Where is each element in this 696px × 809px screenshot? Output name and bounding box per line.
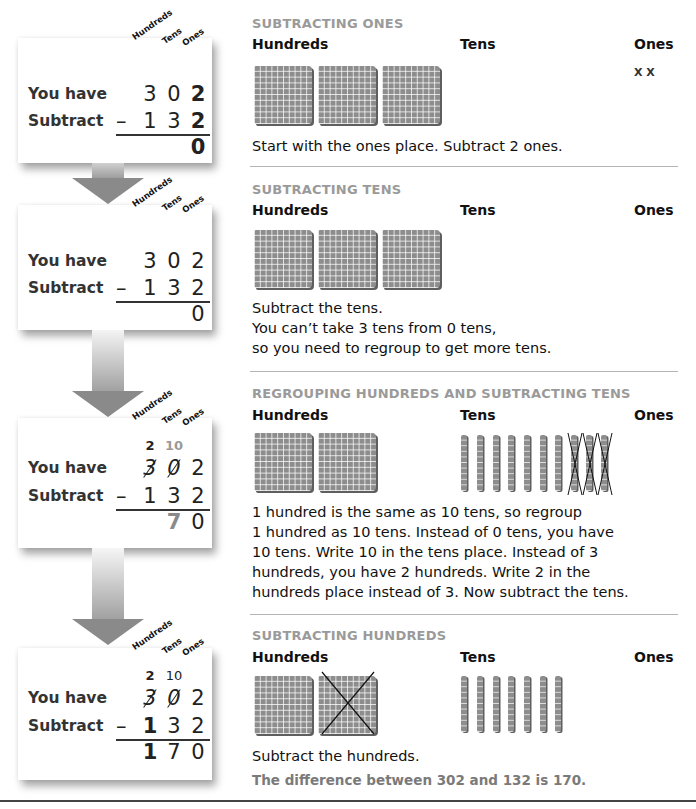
col-head-ones: Ones	[634, 649, 674, 665]
col-head-hundreds: Hundreds	[252, 649, 328, 665]
subtract-ones: 2	[188, 482, 208, 510]
header-ones: Ones	[180, 636, 205, 658]
subtract-ones: 2	[188, 712, 208, 740]
ten-rod	[524, 435, 530, 491]
place-value-headers: Hundreds Tens Ones	[18, 618, 212, 662]
work-card-step-3: Hundreds Tens Ones 2 10 You have 3 0 2 S…	[18, 418, 212, 548]
ten-rod	[508, 676, 514, 732]
subtract-label: Subtract	[28, 482, 103, 510]
have-ones: 2	[188, 454, 208, 482]
have-label: You have	[28, 454, 107, 482]
col-head-hundreds: Hundreds	[252, 202, 328, 218]
hundred-block	[382, 66, 440, 124]
section-text: Subtract the hundreds.	[252, 746, 682, 766]
header-tens: Tens	[160, 405, 183, 426]
hundred-block-crossed	[318, 676, 376, 734]
ten-rod	[508, 435, 514, 491]
have-tens: 0	[164, 247, 184, 275]
subtract-hundreds: 1	[140, 482, 160, 510]
place-value-headers: Hundreds Tens Ones	[18, 388, 212, 432]
carry-hundreds: 2	[140, 438, 160, 454]
minus-sign: –	[116, 712, 127, 740]
have-label: You have	[28, 684, 107, 712]
ten-rod	[461, 676, 467, 732]
subtract-hundreds: 1	[140, 274, 160, 302]
step-2-subtracting-tens: SUBTRACTING TENS Hundreds Tens Ones Subt…	[252, 166, 696, 371]
result-ones: 0	[188, 133, 208, 161]
section-text: 1 hundred is the same as 10 tens, so reg…	[252, 502, 682, 602]
subtract-ones: 2	[188, 274, 208, 302]
subtract-tens: 3	[164, 712, 184, 740]
subtract-hundreds: 1	[140, 712, 160, 740]
hundred-block	[382, 230, 440, 288]
ones-crossed-marks: X X	[634, 66, 655, 79]
result-row: 0	[18, 300, 212, 328]
result-tens: 7	[164, 508, 184, 536]
minus-sign: –	[116, 482, 127, 510]
subtract-tens: 3	[164, 482, 184, 510]
section-text: Subtract the tens. You can’t take 3 tens…	[252, 298, 682, 358]
result-row: 0	[18, 133, 212, 161]
have-row: You have 3 0 2	[18, 80, 212, 108]
header-ones: Ones	[180, 406, 205, 428]
subtract-tens: 3	[164, 274, 184, 302]
carry-hundreds: 2	[140, 668, 160, 684]
have-hundreds: 3	[140, 247, 160, 275]
subtract-label: Subtract	[28, 107, 103, 135]
have-row: You have 3 0 2	[18, 454, 212, 482]
col-head-hundreds: Hundreds	[252, 36, 328, 52]
ten-rod	[493, 435, 499, 491]
subtract-row: Subtract – 1 3 2	[18, 274, 212, 302]
ten-rod	[477, 435, 483, 491]
hundred-block	[318, 66, 376, 124]
ten-rod-crossed	[571, 435, 577, 491]
section-title: SUBTRACTING HUNDREDS	[252, 628, 446, 643]
ten-rod	[524, 676, 530, 732]
section-title: SUBTRACTING ONES	[252, 16, 403, 31]
result-row: 7 0	[18, 508, 212, 536]
col-head-tens: Tens	[460, 649, 496, 665]
col-head-ones: Ones	[634, 202, 674, 218]
bottom-rule	[0, 800, 696, 802]
section-text: Start with the ones place. Subtract 2 on…	[252, 136, 682, 156]
carry-tens: 10	[164, 668, 184, 684]
col-head-tens: Tens	[460, 36, 496, 52]
section-title: REGROUPING HUNDREDS AND SUBTRACTING TENS	[252, 386, 631, 401]
have-label: You have	[28, 80, 107, 108]
hundred-block	[254, 433, 312, 491]
place-value-headers: Hundreds Tens Ones	[18, 175, 212, 219]
result-ones: 0	[188, 738, 208, 766]
header-tens: Tens	[160, 192, 183, 213]
minus-sign: –	[116, 274, 127, 302]
have-row: You have 3 0 2	[18, 684, 212, 712]
step-4-subtracting-hundreds: SUBTRACTING HUNDREDS Hundreds Tens Ones …	[252, 614, 696, 804]
work-card-step-1: Hundreds Tens Ones You have 3 0 2 Subtra…	[18, 38, 212, 163]
hundred-block	[254, 230, 312, 288]
subtract-label: Subtract	[28, 712, 103, 740]
have-hundreds: 3	[140, 80, 160, 108]
section-title: SUBTRACTING TENS	[252, 182, 401, 197]
ten-rod	[493, 676, 499, 732]
ten-rod	[461, 435, 467, 491]
hundred-block	[318, 433, 376, 491]
minus-sign: –	[116, 107, 127, 135]
header-ones: Ones	[180, 193, 205, 215]
step-1-subtracting-ones: SUBTRACTING ONES Hundreds Tens Ones X X …	[252, 0, 696, 160]
subtract-hundreds: 1	[140, 107, 160, 135]
result-hundreds: 1	[140, 738, 160, 766]
conclusion-text: The difference between 302 and 132 is 17…	[252, 770, 682, 790]
subtract-ones: 2	[188, 107, 208, 135]
subtract-label: Subtract	[28, 274, 103, 302]
ten-rod	[540, 676, 546, 732]
result-row: 1 7 0	[18, 738, 212, 766]
ten-rod	[540, 435, 546, 491]
work-card-step-2: Hundreds Tens Ones You have 3 0 2 Subtra…	[18, 205, 212, 330]
col-head-tens: Tens	[460, 202, 496, 218]
col-head-hundreds: Hundreds	[252, 407, 328, 423]
carry-tens: 10	[164, 438, 184, 454]
place-value-headers: Hundreds Tens Ones	[18, 8, 212, 52]
ten-rod	[555, 676, 561, 732]
hundred-block	[254, 66, 312, 124]
subtract-tens: 3	[164, 107, 184, 135]
col-head-ones: Ones	[634, 407, 674, 423]
